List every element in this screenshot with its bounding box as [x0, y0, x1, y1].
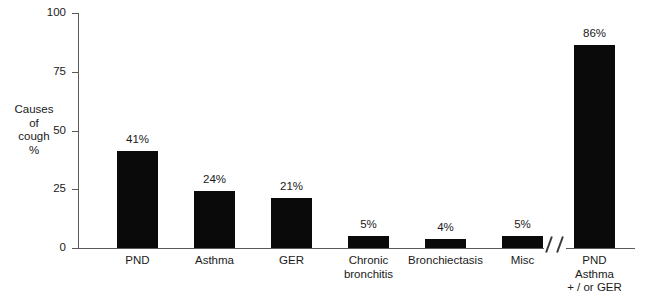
bar-value-ger: 21%	[251, 181, 332, 193]
category-label-asthma: Asthma	[174, 254, 255, 268]
bar-value-chronic-bronchitis: 5%	[328, 219, 409, 231]
category-label-bronchiectasis: Bronchiectasis	[400, 254, 491, 268]
bar-value-pnd: 41%	[97, 134, 178, 146]
category-label-chronic-bronchitis: Chronic bronchitis	[328, 254, 409, 281]
category-label-ger: GER	[251, 254, 332, 268]
y-tick-mark-100	[72, 13, 79, 14]
bar-chronic-bronchitis	[348, 236, 389, 248]
category-label-pnd-asthma-ger-line-2: Asthma	[549, 268, 640, 282]
bar-value-pnd-asthma-ger: 86%	[554, 28, 635, 40]
category-label-pnd-asthma-ger-line-3: + / or GER	[549, 281, 640, 295]
bar-value-misc: 5%	[482, 219, 563, 231]
category-label-chronic-bronchitis-line-2: bronchitis	[328, 268, 409, 282]
bar-misc	[502, 236, 543, 248]
category-label-chronic-bronchitis-line-1: Chronic	[328, 254, 409, 268]
bar-value-asthma: 24%	[174, 174, 255, 186]
y-tick-label-0: 0	[22, 242, 66, 254]
category-label-asthma-line-1: Asthma	[174, 254, 255, 268]
y-tick-mark-50	[72, 131, 79, 132]
category-label-ger-line-1: GER	[251, 254, 332, 268]
y-tick-label-50: 50	[22, 125, 66, 137]
bar-bronchiectasis	[425, 239, 466, 248]
bar-asthma	[194, 191, 235, 248]
y-axis-title-line-4: %	[2, 144, 66, 158]
category-label-pnd: PND	[97, 254, 178, 268]
y-tick-label-75: 75	[22, 66, 66, 78]
bar-value-bronchiectasis: 4%	[405, 222, 486, 234]
y-tick-mark-25	[72, 189, 79, 190]
y-tick-label-25: 25	[22, 183, 66, 195]
y-axis-title-line-1: Causes	[2, 103, 66, 117]
bar-pnd	[117, 151, 158, 248]
category-label-pnd-asthma-ger: PND Asthma + / or GER	[549, 254, 640, 295]
bar-pnd-asthma-ger	[574, 45, 615, 248]
y-tick-label-100: 100	[22, 7, 66, 19]
y-tick-mark-75	[72, 72, 79, 73]
bar-ger	[271, 198, 312, 248]
category-label-pnd-line-1: PND	[97, 254, 178, 268]
category-label-bronchiectasis-line-1: Bronchiectasis	[400, 254, 491, 268]
bar-chart-figure: Causes of cough % 0 25 50 75 100 41% 24%…	[0, 0, 645, 298]
category-label-pnd-asthma-ger-line-1: PND	[549, 254, 640, 268]
